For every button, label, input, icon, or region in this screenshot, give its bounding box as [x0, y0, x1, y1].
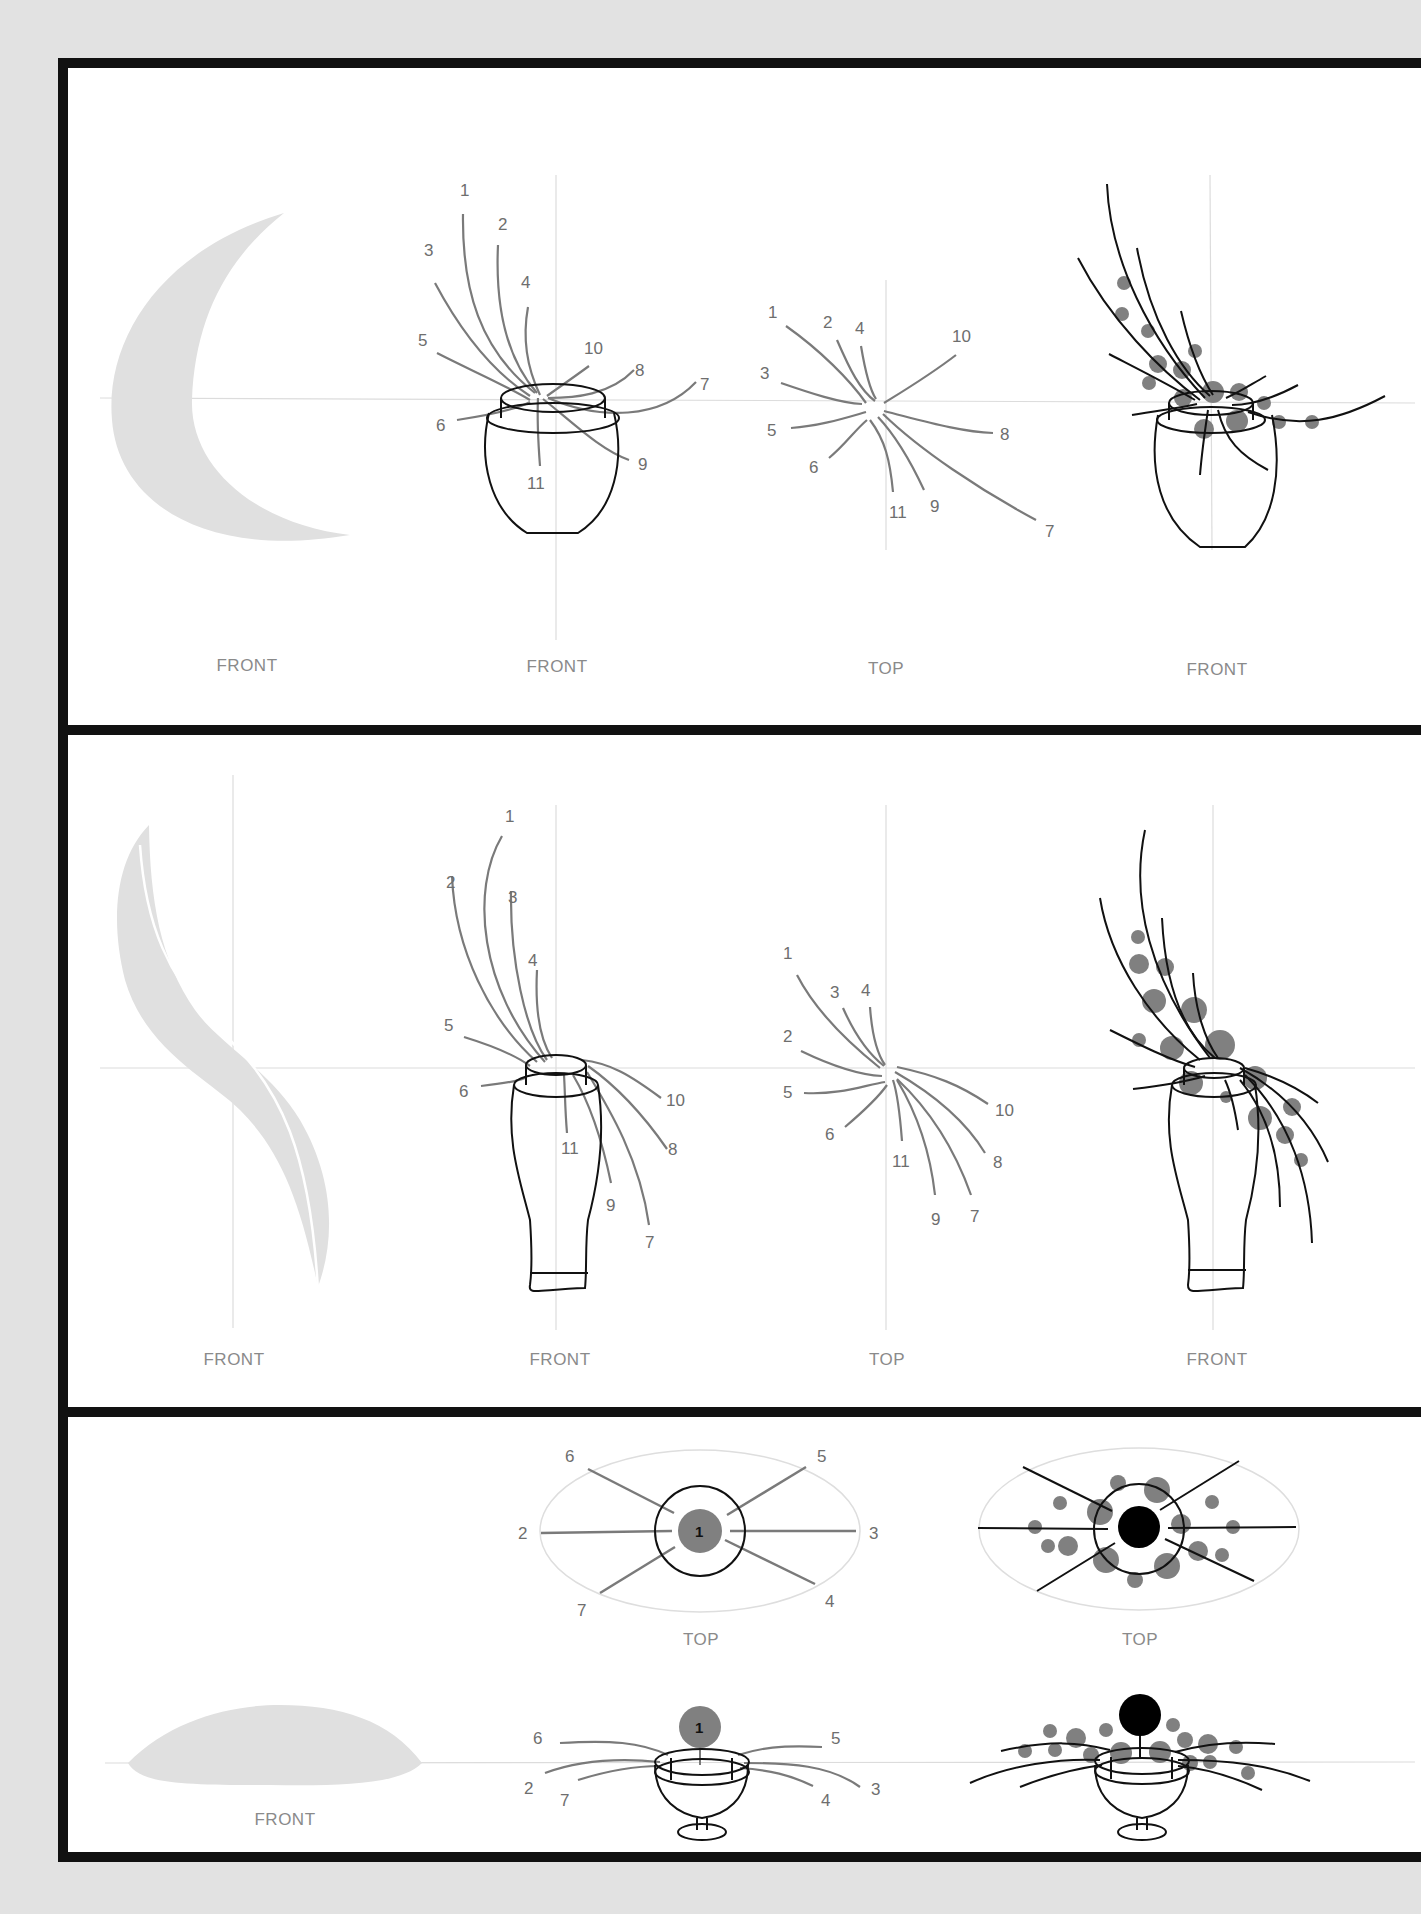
page-frame: [58, 58, 1421, 1862]
section-divider-1: [58, 725, 1421, 735]
section-divider-2: [58, 1407, 1421, 1417]
